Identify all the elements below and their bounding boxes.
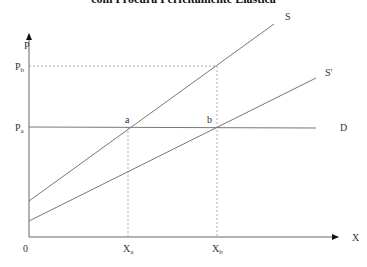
pb-label: Pb [15,61,25,74]
demand-curve [29,127,316,128]
supply-curve [29,24,274,201]
point-a-label: a [125,114,130,125]
supply-demand-diagram: P X 0 Pb Pa Xa Xb S S' D a b [0,0,367,267]
origin-label: 0 [23,243,28,254]
xa-label: Xa [123,243,134,256]
supply-label: S [285,11,291,22]
y-axis-label: P [24,40,30,51]
x-axis-label: X [352,232,360,243]
point-b-label: b [207,114,212,125]
supply-shifted-curve [29,78,316,221]
demand-label: D [340,122,347,133]
pa-label: Pa [15,122,25,135]
xb-label: Xb [212,243,223,256]
supply-shifted-label: S' [325,67,333,78]
